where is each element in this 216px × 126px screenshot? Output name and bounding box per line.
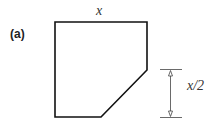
diagram-canvas: (a) x x/2	[0, 0, 216, 126]
arrow-up-icon	[169, 71, 173, 77]
pentagon-shape	[55, 22, 147, 117]
dimension-label: x/2	[186, 78, 204, 93]
dimension-marker	[160, 70, 182, 118]
top-width-label: x	[95, 3, 103, 18]
arrow-down-icon	[169, 111, 173, 117]
panel-label: (a)	[10, 27, 25, 41]
